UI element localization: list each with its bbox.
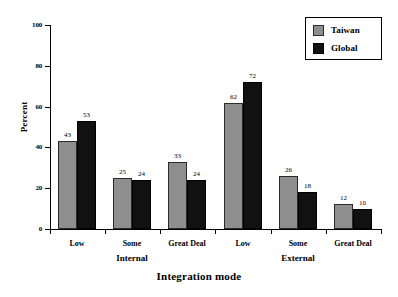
x-category-label-external-low: Low [218, 239, 268, 248]
y-tick-100 [45, 25, 50, 26]
x-axis-title: Integration mode [0, 270, 398, 282]
x-tick-6 [381, 230, 382, 234]
x-category-label-internal-some: Some [107, 239, 157, 248]
bar-value-internal-greatdeal-taiwan: 33 [166, 153, 189, 160]
x-tick-1 [105, 230, 106, 234]
bar-internal-low-global [77, 121, 96, 229]
x-tick-0 [50, 230, 51, 234]
legend-swatch-global-icon [313, 43, 324, 54]
legend-label-taiwan: Taiwan [331, 26, 360, 35]
y-tick-60 [45, 107, 50, 108]
bar-internal-some-taiwan [113, 178, 132, 229]
bar-external-low-global [243, 82, 262, 229]
bar-value-internal-low-global: 53 [75, 112, 98, 119]
bar-value-internal-some-global: 24 [130, 171, 153, 178]
x-category-label-internal-greatdeal: Great Deal [162, 239, 212, 248]
legend-label-global: Global [331, 44, 358, 53]
bar-value-external-some-global: 18 [296, 183, 319, 190]
bar-external-low-taiwan [224, 103, 243, 229]
x-tick-2 [160, 230, 161, 234]
x-group-label-internal: Internal [92, 253, 172, 263]
bar-internal-greatdeal-global [187, 180, 206, 229]
bar-chart: 0 20 40 60 80 100 Percent 43 53 25 24 33… [0, 0, 398, 297]
bar-external-some-global [298, 192, 317, 229]
y-tick-label-20: 20 [35, 185, 42, 192]
x-tick-5 [326, 230, 327, 234]
bar-value-internal-low-taiwan: 43 [56, 132, 79, 139]
x-tick-3 [215, 230, 216, 234]
y-tick-label-100: 100 [32, 22, 42, 29]
x-tick-4 [271, 230, 272, 234]
y-tick-40 [45, 147, 50, 148]
bar-value-external-low-global: 72 [241, 73, 264, 80]
y-tick-80 [45, 66, 50, 67]
y-tick-label-80: 80 [35, 63, 42, 70]
y-tick-label-0: 0 [39, 226, 42, 233]
bar-value-internal-greatdeal-global: 24 [185, 171, 208, 178]
legend-item-global: Global [313, 41, 358, 55]
x-category-label-external-some: Some [273, 239, 323, 248]
bar-external-greatdeal-taiwan [334, 204, 353, 229]
bar-value-external-greatdeal-global: 10 [351, 200, 374, 207]
y-tick-20 [45, 188, 50, 189]
legend-swatch-taiwan-icon [313, 25, 324, 36]
legend: Taiwan Global [305, 17, 382, 60]
legend-item-taiwan: Taiwan [313, 23, 360, 37]
x-category-label-internal-low: Low [52, 239, 102, 248]
y-axis-title: Percent [19, 87, 29, 147]
bar-internal-some-global [132, 180, 151, 229]
bar-external-greatdeal-global [353, 209, 372, 229]
x-category-label-external-greatdeal: Great Deal [328, 239, 378, 248]
y-axis-line [50, 25, 51, 229]
bar-value-external-low-taiwan: 62 [222, 94, 245, 101]
bar-value-external-some-taiwan: 26 [277, 167, 300, 174]
bar-internal-low-taiwan [58, 141, 77, 229]
x-group-label-external: External [258, 253, 338, 263]
y-tick-label-60: 60 [35, 104, 42, 111]
y-tick-label-40: 40 [35, 144, 42, 151]
x-axis-line [50, 229, 382, 230]
